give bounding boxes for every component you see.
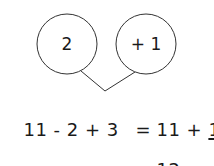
equation-rhs-prefix: 11 + — [156, 119, 208, 140]
equation-line-2-result: 12 — [144, 138, 180, 166]
equation-result: 12 — [156, 159, 180, 166]
equation-lhs: 11 - 2 + 3 — [23, 119, 118, 140]
circle-right-label: + 1 — [131, 34, 161, 54]
equation-rhs: 11 + 1 — [144, 98, 214, 140]
circle-left-label: 2 — [62, 34, 73, 54]
connector-right — [105, 72, 135, 91]
split-diagram: 2 + 1 — [0, 0, 214, 166]
connector-left — [81, 71, 105, 91]
equation-line-1: 11 - 2 + 3 — [11, 98, 119, 140]
equation-rhs-underlined: 1 — [208, 119, 214, 140]
